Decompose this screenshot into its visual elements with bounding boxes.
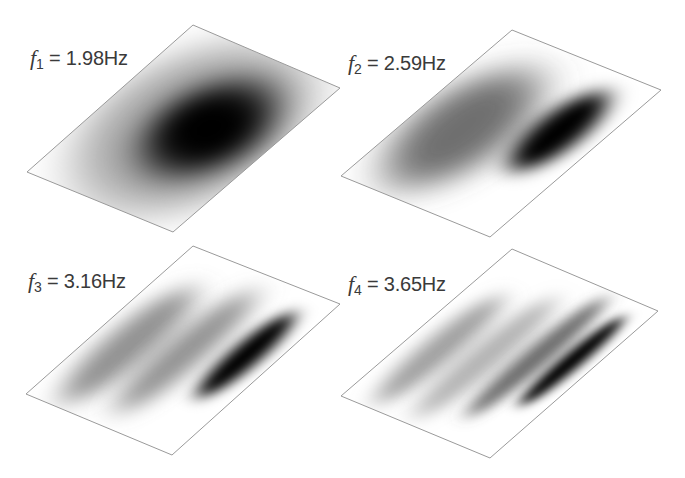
mode-index: 2 <box>354 61 362 77</box>
mode-2-frequency-label: f2 = 2.59Hz <box>348 52 446 76</box>
mode-index: 1 <box>36 56 44 72</box>
mode-shapes-figure: f1 = 1.98Hz f2 = 2.59Hz f3 = 3.16Hz f4 =… <box>0 0 685 478</box>
mode-shapes-canvas <box>0 0 685 478</box>
frequency-value: 3.16Hz <box>64 270 126 292</box>
mode-3-frequency-label: f3 = 3.16Hz <box>28 270 126 294</box>
mode-1-frequency-label: f1 = 1.98Hz <box>30 47 128 71</box>
frequency-value: 2.59Hz <box>384 52 446 74</box>
mode-4-frequency-label: f4 = 3.65Hz <box>348 273 446 297</box>
frequency-value: 1.98Hz <box>66 47 128 69</box>
equals-sign: = <box>49 47 60 69</box>
equals-sign: = <box>367 273 378 295</box>
frequency-value: 3.65Hz <box>384 273 446 295</box>
equals-sign: = <box>47 270 58 292</box>
mode-index: 4 <box>354 282 362 298</box>
mode-index: 3 <box>34 279 42 295</box>
equals-sign: = <box>367 52 378 74</box>
